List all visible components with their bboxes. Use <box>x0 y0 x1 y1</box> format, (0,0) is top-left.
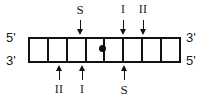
cleavage-site-arrow-down-icon <box>139 20 148 35</box>
dna-duplex-diagram: 5' 3' 3' 5' SIII IIIS <box>0 0 209 99</box>
base-pair-rung <box>141 37 143 63</box>
cleavage-site-arrow-up-icon <box>55 65 64 80</box>
site-label-bottom-i: I <box>72 82 92 97</box>
cleavage-site-arrow-down-icon <box>76 20 85 35</box>
cleavage-site-arrow-up-icon <box>120 65 129 80</box>
base-pair-rung <box>85 37 87 63</box>
site-label-top-s: S <box>70 2 90 18</box>
cleavage-site-arrow-up-icon <box>78 65 87 80</box>
site-label-top-ii: II <box>133 2 153 17</box>
center-dot-marker <box>99 45 106 52</box>
cleavage-site-arrow-down-icon <box>119 20 128 35</box>
end-label-right-top: 3' <box>186 30 196 45</box>
base-pair-rung <box>66 37 68 63</box>
base-pair-rung <box>179 37 181 63</box>
end-label-left-bottom: 3' <box>6 53 16 68</box>
base-pair-rung <box>47 37 49 63</box>
end-label-left-top: 5' <box>6 30 16 45</box>
site-label-top-i: I <box>113 2 133 17</box>
base-pair-rung <box>160 37 162 63</box>
site-label-bottom-s: S <box>114 82 134 98</box>
base-pair-rung <box>122 37 124 63</box>
end-label-right-bottom: 5' <box>186 53 196 68</box>
site-label-bottom-ii: II <box>49 82 69 97</box>
base-pair-rung <box>28 37 30 63</box>
